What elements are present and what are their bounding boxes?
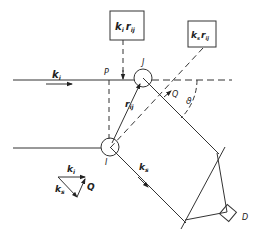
label-ks: ks: [139, 162, 149, 173]
Q-arrow: [164, 91, 171, 97]
label-J: J: [140, 58, 145, 67]
box1-text: kirij: [115, 21, 136, 34]
r-ij-vector: [112, 84, 140, 143]
scattering-diagram: ki P J I Q rij ϑ D ks kirij ksrij ki ks …: [0, 0, 262, 240]
triangle-label-ki: ki: [67, 164, 76, 175]
label-angle: ϑ: [186, 96, 192, 106]
to-detector-upper: [217, 153, 227, 212]
label-P: P: [104, 68, 109, 77]
label-I: I: [105, 158, 108, 167]
label-r-ij: rij: [125, 99, 135, 111]
triangle-label-Q: Q: [87, 182, 95, 192]
to-detector-lower: [185, 212, 227, 220]
label-Q-point: Q: [172, 90, 178, 99]
label-ki: ki: [52, 69, 62, 81]
scattered-beam-J: [143, 78, 219, 154]
ks-arrow: [138, 177, 148, 187]
triangle-label-ks: ks: [55, 184, 65, 195]
label-D: D: [242, 213, 248, 222]
scattered-beam-I: [110, 147, 186, 223]
box2-text: ksrij: [191, 30, 209, 42]
triangle-Q: [77, 179, 85, 197]
